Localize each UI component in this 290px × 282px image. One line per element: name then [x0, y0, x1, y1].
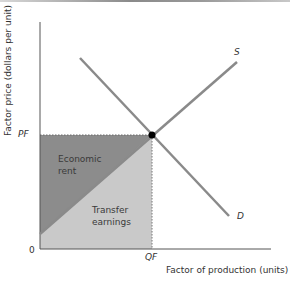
economic-rent-line1: Economic [58, 153, 102, 165]
origin-label: 0 [29, 246, 35, 255]
economic-rent-line2: rent [58, 165, 102, 177]
qf-label: QF [145, 253, 157, 262]
pf-label: PF [18, 130, 29, 139]
transfer-line1: Transfer [92, 204, 131, 216]
equilibrium-point [149, 132, 156, 139]
transfer-earnings-label: Transfer earnings [92, 204, 131, 228]
supply-label: S [234, 48, 240, 57]
economic-rent-label: Economic rent [58, 153, 102, 177]
y-axis-label: Factor price (dollars per unit) [3, 5, 13, 136]
transfer-line2: earnings [92, 216, 131, 228]
demand-label: D [237, 212, 244, 221]
chart-canvas [0, 0, 290, 282]
x-axis-label: Factor of production (units) [166, 266, 288, 275]
